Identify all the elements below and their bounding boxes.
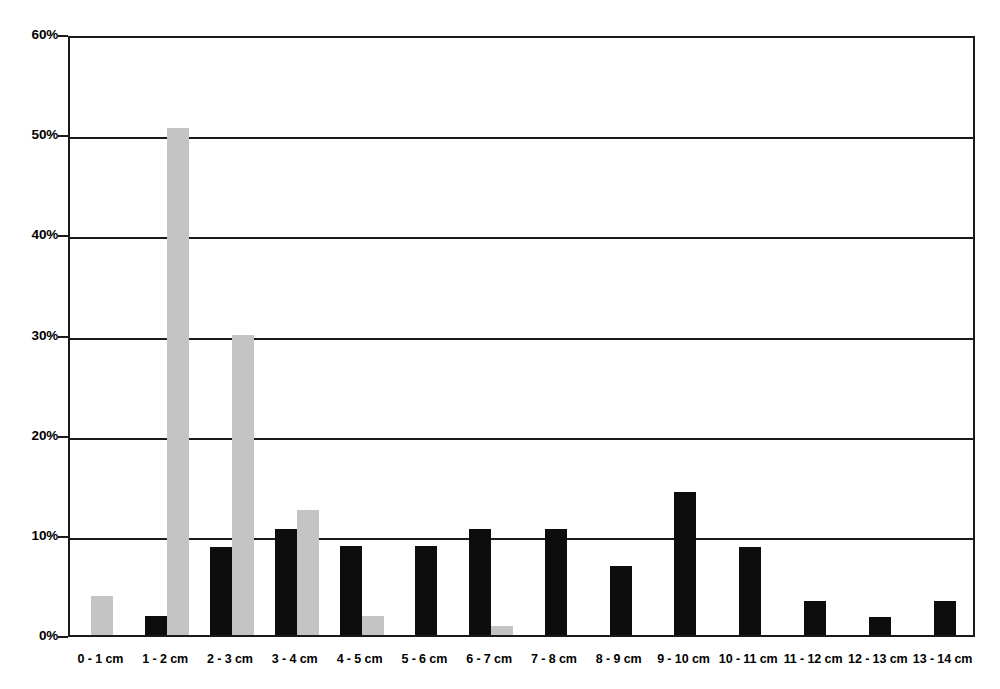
bar-group <box>783 38 848 635</box>
y-axis-tick-mark <box>58 35 68 37</box>
y-axis-tick-mark <box>58 336 68 338</box>
bar-group <box>653 38 718 635</box>
bar <box>210 547 232 635</box>
x-axis-tick-label: 7 - 8 cm <box>531 652 577 666</box>
y-axis-tick-label: 20% <box>6 428 58 443</box>
bar-group <box>459 38 524 635</box>
x-axis-tick-label: 9 - 10 cm <box>657 652 710 666</box>
bar-group <box>200 38 265 635</box>
bar <box>934 601 956 635</box>
bar <box>545 529 567 635</box>
bar <box>275 529 297 635</box>
bar-group <box>718 38 783 635</box>
x-axis-tick-label: 13 - 14 cm <box>913 652 972 666</box>
x-axis-tick-label: 6 - 7 cm <box>466 652 512 666</box>
bar <box>674 492 696 635</box>
x-axis-tick-label: 4 - 5 cm <box>337 652 383 666</box>
y-axis-tick-label: 30% <box>6 328 58 343</box>
y-axis-tick-mark <box>58 536 68 538</box>
x-axis-tick-label: 3 - 4 cm <box>272 652 318 666</box>
bar-group <box>264 38 329 635</box>
bar-group <box>135 38 200 635</box>
bar-group <box>588 38 653 635</box>
x-axis-tick-label: 1 - 2 cm <box>142 652 188 666</box>
y-axis-tick-label: 0% <box>6 628 58 643</box>
bar <box>739 547 761 635</box>
bar-group <box>329 38 394 635</box>
bar <box>869 617 891 635</box>
y-axis-tick-mark <box>58 135 68 137</box>
bar <box>91 596 113 635</box>
bar <box>415 546 437 635</box>
x-axis-tick-label: 5 - 6 cm <box>401 652 447 666</box>
bar <box>340 546 362 635</box>
bar-group <box>70 38 135 635</box>
x-axis-tick-label: 11 - 12 cm <box>784 652 843 666</box>
x-axis-tick-label: 10 - 11 cm <box>719 652 778 666</box>
y-axis-tick-label: 50% <box>6 127 58 142</box>
bar <box>145 616 167 635</box>
bar-group <box>847 38 912 635</box>
bar <box>491 626 513 635</box>
bar <box>297 510 319 635</box>
x-axis-tick-label: 12 - 13 cm <box>848 652 907 666</box>
bar <box>610 566 632 635</box>
bar <box>804 601 826 635</box>
y-axis-tick-mark <box>58 636 68 638</box>
bar <box>167 128 189 635</box>
bar <box>362 616 384 635</box>
bar <box>469 529 491 635</box>
bar-group <box>524 38 589 635</box>
x-axis-tick-label: 2 - 3 cm <box>207 652 253 666</box>
bar-chart: 0%10%20%30%40%50%60% 0 - 1 cm1 - 2 cm2 -… <box>0 0 1000 689</box>
bar <box>232 335 254 636</box>
x-axis-tick-label: 0 - 1 cm <box>78 652 124 666</box>
bar-group <box>912 38 977 635</box>
bar-group <box>394 38 459 635</box>
x-axis-tick-label: 8 - 9 cm <box>596 652 642 666</box>
y-axis-tick-label: 60% <box>6 27 58 42</box>
y-axis-tick-label: 40% <box>6 227 58 242</box>
y-axis-tick-label: 10% <box>6 528 58 543</box>
plot-area <box>68 36 975 637</box>
y-axis-tick-mark <box>58 235 68 237</box>
y-axis-tick-mark <box>58 436 68 438</box>
